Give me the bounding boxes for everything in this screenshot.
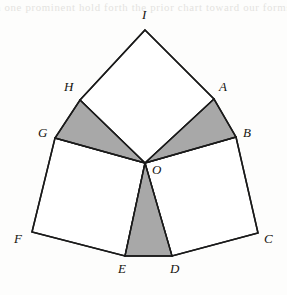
vertex-label-A: A	[219, 80, 227, 93]
vertex-label-H: H	[64, 80, 73, 93]
vertex-label-E: E	[118, 262, 126, 275]
vertex-label-I: I	[142, 8, 146, 21]
vertex-label-G: G	[38, 126, 47, 139]
vertex-label-O: O	[152, 163, 161, 176]
vertex-label-F: F	[14, 232, 22, 245]
vertex-label-D: D	[170, 262, 179, 275]
figure-canvas	[0, 0, 287, 295]
vertex-label-C: C	[264, 232, 273, 245]
geometry-figure: a one prominent hold forth the prior cha…	[0, 0, 287, 295]
vertex-label-B: B	[243, 126, 251, 139]
